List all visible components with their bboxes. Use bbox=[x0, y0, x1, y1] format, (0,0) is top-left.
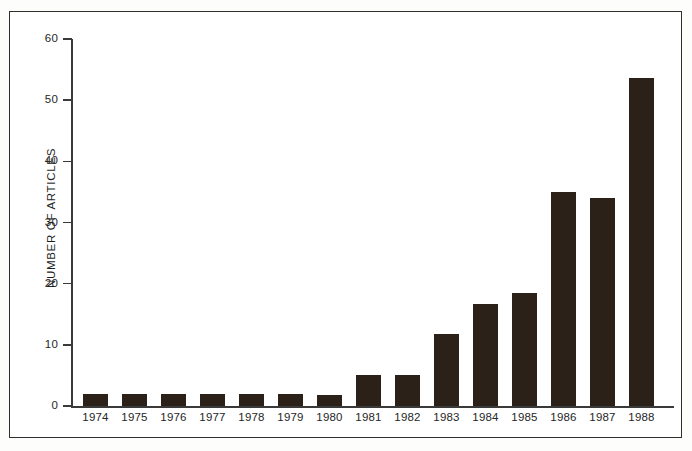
bar bbox=[473, 304, 498, 406]
bar-slot bbox=[115, 39, 154, 406]
x-tick-label: 1982 bbox=[388, 411, 427, 423]
y-tick-label: 40 bbox=[10, 155, 58, 167]
bar-slot bbox=[505, 39, 544, 406]
x-tick-label: 1978 bbox=[232, 411, 271, 423]
x-tick-label: 1975 bbox=[115, 411, 154, 423]
bar bbox=[551, 192, 576, 406]
figure-container: NUMBER OF ARTICLES 0102030405060 1974197… bbox=[0, 0, 692, 451]
bar bbox=[317, 395, 342, 406]
x-tick-label: 1983 bbox=[427, 411, 466, 423]
figure-frame: NUMBER OF ARTICLES 0102030405060 1974197… bbox=[9, 11, 682, 438]
bar bbox=[629, 78, 654, 406]
x-tick-label: 1984 bbox=[466, 411, 505, 423]
y-tick-label: 50 bbox=[10, 94, 58, 106]
bar-slot bbox=[544, 39, 583, 406]
x-tick-label: 1979 bbox=[271, 411, 310, 423]
bar-slot bbox=[310, 39, 349, 406]
x-tick-label: 1985 bbox=[505, 411, 544, 423]
bar-slot bbox=[622, 39, 661, 406]
x-tick-label: 1987 bbox=[583, 411, 622, 423]
y-tick-label: 60 bbox=[10, 33, 58, 45]
x-axis-line bbox=[71, 406, 674, 408]
bar bbox=[239, 394, 264, 406]
x-tick-label: 1981 bbox=[349, 411, 388, 423]
x-tick-label: 1980 bbox=[310, 411, 349, 423]
bar-slot bbox=[193, 39, 232, 406]
bar bbox=[83, 394, 108, 406]
x-tick-label: 1986 bbox=[544, 411, 583, 423]
bar-slot bbox=[388, 39, 427, 406]
bar bbox=[200, 394, 225, 406]
x-tick-label: 1988 bbox=[622, 411, 661, 423]
bar bbox=[356, 375, 381, 406]
x-tick-label: 1974 bbox=[76, 411, 115, 423]
bar bbox=[395, 375, 420, 406]
y-tick-label: 10 bbox=[10, 339, 58, 351]
y-tick-label: 20 bbox=[10, 278, 58, 290]
bar-slot bbox=[232, 39, 271, 406]
y-tick-label: 0 bbox=[10, 400, 58, 412]
bar bbox=[434, 334, 459, 406]
plot-area: NUMBER OF ARTICLES 0102030405060 1974197… bbox=[10, 12, 681, 437]
bar-slot bbox=[427, 39, 466, 406]
x-tick-label: 1976 bbox=[154, 411, 193, 423]
bar bbox=[512, 293, 537, 406]
bar bbox=[590, 198, 615, 406]
bar-slot bbox=[466, 39, 505, 406]
bar bbox=[122, 394, 147, 406]
y-tick-label: 30 bbox=[10, 217, 58, 229]
bar bbox=[278, 394, 303, 406]
bar-slot bbox=[76, 39, 115, 406]
bar-slot bbox=[154, 39, 193, 406]
bar-series: 1974197519761977197819791980198119821983… bbox=[71, 39, 674, 406]
bar-slot bbox=[349, 39, 388, 406]
bar-slot bbox=[583, 39, 622, 406]
bar bbox=[161, 394, 186, 406]
x-tick-label: 1977 bbox=[193, 411, 232, 423]
bar-slot bbox=[271, 39, 310, 406]
